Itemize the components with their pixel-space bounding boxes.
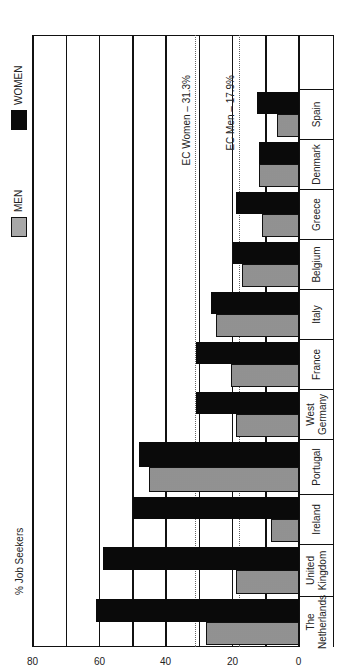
category-line1: Italy (311, 305, 323, 323)
bar-women (96, 599, 299, 622)
category-line1: Portugal (311, 448, 323, 485)
bar-men (242, 264, 299, 287)
bar-men (262, 214, 299, 237)
category-label-text: France (311, 349, 323, 380)
bar-men (259, 164, 299, 187)
category-line1: Ireland (311, 504, 323, 535)
category-line1: The (305, 595, 317, 649)
category-label: WestGermany (300, 389, 333, 439)
y-tick-label: 20 (222, 656, 242, 667)
reference-line-label: EC Women – 31.3% (181, 75, 192, 165)
y-axis-title: % Job Seekers (14, 528, 25, 595)
bar-women (133, 497, 299, 520)
category-line1: France (311, 349, 323, 380)
legend-label-men: MEN (13, 190, 24, 212)
category-label: Portugal (300, 439, 333, 494)
category-label-text: Italy (311, 305, 323, 323)
legend-swatch-women (11, 110, 27, 130)
bar-men (236, 570, 299, 593)
category-line1: Denmark (311, 144, 323, 185)
y-tick-label: 60 (89, 656, 109, 667)
bar-women (103, 547, 299, 570)
bar-women (257, 92, 299, 115)
category-label-text: UnitedKingdom (305, 551, 329, 590)
gridline-70 (66, 35, 68, 647)
category-line2: Kingdom (317, 551, 329, 590)
reference-line-label: EC Men – 17.9% (225, 75, 236, 151)
bar-women (139, 442, 299, 467)
category-label: TheNetherlands (300, 596, 333, 647)
category-label: Ireland (300, 494, 333, 544)
category-line1: West (305, 394, 317, 435)
category-label-text: Spain (311, 102, 323, 128)
bar-women (236, 192, 299, 215)
bar-women (196, 392, 299, 415)
category-line2: Germany (317, 394, 329, 435)
legend-swatch-men (11, 217, 27, 237)
bar-men (231, 364, 299, 387)
bar-men (206, 622, 299, 645)
category-label-text: WestGermany (305, 394, 329, 435)
y-tick-label: 80 (23, 656, 43, 667)
category-line1: United (305, 551, 317, 590)
category-label: Denmark (300, 139, 333, 189)
category-label: Italy (300, 289, 333, 339)
category-label-text: Denmark (311, 144, 323, 185)
bar-women (233, 242, 300, 265)
category-line1: Greece (311, 198, 323, 231)
gridline-80 (32, 35, 34, 647)
category-line1: Belgium (311, 246, 323, 282)
category-label-text: TheNetherlands (305, 595, 329, 649)
category-label-text: Greece (311, 198, 323, 231)
bar-men (271, 519, 299, 542)
category-label: Spain (300, 89, 333, 139)
category-label-text: Belgium (311, 246, 323, 282)
category-label-text: Portugal (311, 448, 323, 485)
y-tick-label: 40 (156, 656, 176, 667)
bar-men (236, 414, 299, 437)
gridline-60 (99, 35, 101, 647)
category-line2: Netherlands (317, 595, 329, 649)
category-label: Greece (300, 189, 333, 239)
bar-men (149, 467, 299, 492)
bar-men (216, 314, 299, 337)
category-label: France (300, 339, 333, 389)
bar-women (196, 342, 299, 365)
legend-label-women: WOMEN (13, 66, 24, 105)
category-line1: Spain (311, 102, 323, 128)
bar-men (277, 114, 299, 137)
y-tick-label: 0 (289, 656, 309, 667)
category-label-text: Ireland (311, 504, 323, 535)
bar-women (211, 292, 299, 315)
bar-women (259, 142, 299, 165)
category-label: Belgium (300, 239, 333, 289)
category-label: UnitedKingdom (300, 544, 333, 596)
